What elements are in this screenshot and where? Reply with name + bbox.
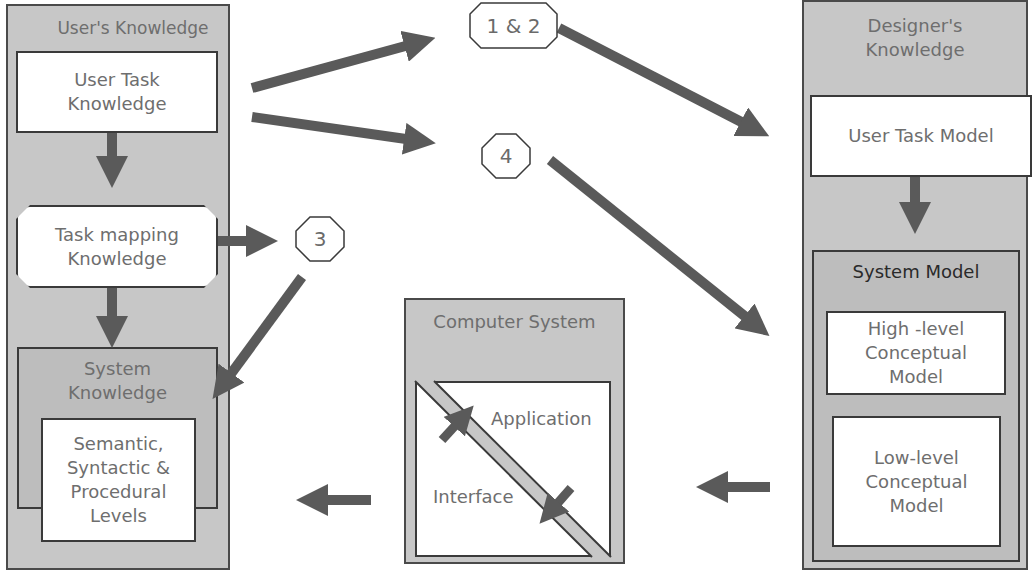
arrow-tag-3-to-system-knowledge: [222, 277, 302, 386]
arrow-user-to-tag-4: [252, 117, 420, 141]
arrow-user-to-tag-12: [252, 42, 420, 88]
arrow-tag-4-to-system-model: [550, 160, 757, 326]
interface-application-divider: [415, 381, 611, 557]
tag-4-label: 4: [482, 134, 530, 178]
tag-12-label: 1 & 2: [470, 3, 557, 48]
tag-3-label: 3: [296, 217, 344, 261]
arrow-tag-12-to-designer: [559, 28, 755, 129]
